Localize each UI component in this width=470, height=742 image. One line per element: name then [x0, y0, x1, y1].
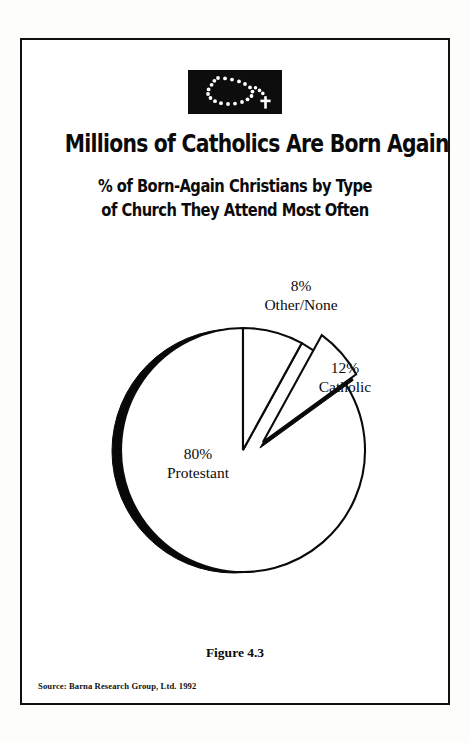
rosary-icon [188, 70, 282, 114]
figure-caption: Figure 4.3 [30, 645, 440, 661]
pie-label-other-none-percent: 8% [236, 276, 366, 295]
pie-label-other-none: 8% Other/None [236, 276, 366, 314]
pie-label-protestant-percent: 80% [141, 444, 255, 463]
source-note: Source: Barna Research Group, Ltd. 1992 [38, 681, 196, 691]
pie-label-other-none-name: Other/None [236, 295, 366, 314]
figure-page: Millions of Catholics Are Born Again % o… [0, 0, 470, 742]
rosary-icon-glyph [188, 70, 282, 114]
pie-label-catholic-name: Catholic [297, 377, 393, 396]
chart-subtitle-line-2: of Church They Attend Most Often [63, 198, 407, 222]
pie-label-protestant: 80% Protestant [141, 444, 255, 482]
chart-subtitle: % of Born-Again Christians by Type of Ch… [63, 174, 407, 222]
chart-subtitle-line-1: % of Born-Again Christians by Type [63, 174, 407, 198]
pie-label-catholic: 12% Catholic [297, 358, 393, 396]
pie-label-protestant-name: Protestant [141, 463, 255, 482]
chart-title: Millions of Catholics Are Born Again [65, 129, 405, 158]
pie-label-catholic-percent: 12% [297, 358, 393, 377]
